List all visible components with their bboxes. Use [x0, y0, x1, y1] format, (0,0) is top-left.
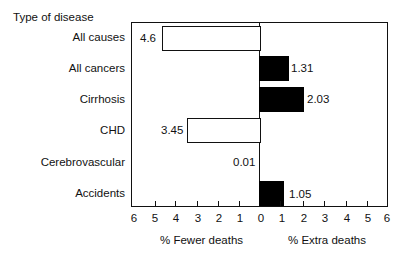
value-label-accidents: 1.05: [289, 188, 311, 200]
x-axis-label-fewer: % Fewer deaths: [160, 234, 243, 246]
x-tick-label: 5: [148, 212, 162, 224]
x-tick-label: 3: [318, 212, 332, 224]
x-tick-label: 6: [380, 212, 394, 224]
y-axis-title: Type of disease: [13, 11, 94, 23]
x-tick-label: 6: [127, 212, 141, 224]
category-label-all-cancers: All cancers: [69, 62, 125, 74]
x-tick-label: 3: [191, 212, 205, 224]
x-axis-label-extra: % Extra deaths: [288, 234, 366, 246]
x-tick: [218, 201, 219, 207]
bar-all-causes: [162, 26, 261, 51]
x-tick: [280, 201, 281, 207]
x-tick-label: 4: [340, 212, 354, 224]
x-tick-label: 2: [297, 212, 311, 224]
category-label-chd: CHD: [100, 124, 125, 136]
x-tick-label: 0: [254, 212, 268, 224]
x-tick-label: 1: [233, 212, 247, 224]
x-tick-label: 2: [212, 212, 226, 224]
bar-all-cancers: [259, 56, 289, 81]
value-label-all-causes: 4.6: [140, 32, 156, 44]
x-tick-label: 4: [169, 212, 183, 224]
x-tick: [324, 201, 325, 207]
value-label-all-cancers: 1.31: [291, 62, 313, 74]
value-label-cirrhosis: 2.03: [307, 93, 329, 105]
value-label-chd: 3.45: [161, 124, 183, 136]
x-tick: [303, 201, 304, 207]
x-tick-label: 1: [275, 212, 289, 224]
x-tick: [239, 201, 240, 207]
category-label-all-causes: All causes: [73, 31, 125, 43]
value-label-cerebrovascular: 0.01: [233, 156, 255, 168]
x-tick-label: 5: [361, 212, 375, 224]
x-tick: [155, 201, 156, 207]
bar-cirrhosis: [259, 87, 304, 112]
bar-chd: [187, 118, 261, 143]
category-label-cirrhosis: Cirrhosis: [80, 93, 125, 105]
x-tick: [367, 201, 368, 207]
category-label-cerebrovascular: Cerebrovascular: [41, 156, 125, 168]
x-tick: [197, 201, 198, 207]
x-tick: [346, 201, 347, 207]
x-tick: [175, 201, 176, 207]
category-label-accidents: Accidents: [75, 187, 125, 199]
